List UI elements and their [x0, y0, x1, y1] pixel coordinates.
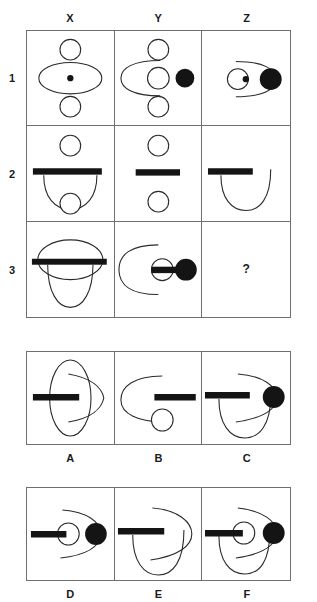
bar-short [118, 528, 164, 535]
matrix-cell-z1 [202, 31, 290, 126]
circle-filled-right [85, 523, 107, 545]
circle-bottom-open [148, 192, 169, 213]
option-cell-b[interactable] [115, 352, 203, 444]
figure-x2 [27, 126, 114, 220]
figure-option-c [202, 352, 290, 444]
circle-top-open [60, 39, 81, 60]
bar-wide [32, 258, 107, 264]
center-dot-filled [243, 76, 249, 82]
row-label-3: 3 [0, 222, 24, 318]
options-grid-abc [26, 351, 291, 445]
option-cell-f[interactable] [202, 488, 290, 580]
circle-bottom-open [148, 96, 169, 117]
figure-y3 [115, 222, 202, 317]
figure-y2 [115, 126, 202, 220]
circle-bottom-open [60, 96, 81, 117]
option-labels-def: D E F [26, 585, 291, 602]
option-label-d: D [26, 585, 114, 602]
circle-filled-right [260, 68, 282, 90]
bar-wide [33, 169, 102, 175]
option-label-e: E [114, 585, 202, 602]
column-header-z: Z [203, 8, 291, 28]
circle-filled-right [263, 386, 285, 408]
option-label-c: C [203, 449, 291, 467]
matrix-cell-x1 [27, 31, 115, 126]
figure-option-a [27, 352, 114, 444]
column-headers: X Y Z [26, 8, 291, 28]
column-header-x: X [26, 8, 114, 28]
circle-center-open [147, 67, 169, 89]
option-cell-e[interactable] [115, 488, 203, 580]
figure-option-e [115, 488, 202, 580]
figure-x1 [27, 31, 114, 125]
bar-wide [33, 394, 79, 401]
bar-short [154, 394, 195, 401]
bar-short [31, 531, 66, 538]
figure-option-b [115, 352, 202, 444]
row-labels: 1 2 3 [0, 30, 24, 318]
center-dot-filled [67, 75, 73, 81]
option-label-a: A [26, 449, 114, 467]
circle-bottom-open [151, 409, 173, 431]
figure-option-f [202, 488, 290, 580]
circle-bottom-open [60, 194, 81, 215]
option-cell-a[interactable] [27, 352, 115, 444]
options-grid-def [26, 487, 291, 581]
row-label-1: 1 [0, 30, 24, 126]
matrix-cell-z3-missing[interactable]: ? [202, 222, 290, 317]
matrix-cell-z2 [202, 126, 290, 221]
figure-x3 [27, 222, 114, 317]
circle-filled-right [175, 69, 194, 88]
circle-filled-right [175, 258, 197, 280]
figure-option-d [27, 488, 114, 580]
figure-z2 [202, 126, 290, 220]
bar-short [205, 392, 250, 399]
figure-z1 [202, 31, 290, 125]
bar-short [135, 170, 179, 176]
u-curve-below [219, 396, 271, 438]
matrix-grid: ? [26, 30, 291, 318]
bar-short [205, 530, 243, 537]
matrix-cell-y1 [115, 31, 203, 126]
option-cell-c[interactable] [202, 352, 290, 444]
figure-y1 [115, 31, 202, 125]
question-mark: ? [202, 222, 290, 317]
circle-top-open [148, 136, 169, 157]
u-curve-below [221, 170, 271, 211]
option-labels-abc: A B C [26, 449, 291, 467]
option-label-f: F [203, 585, 291, 602]
circle-top-open [148, 39, 169, 60]
bar-short [208, 169, 253, 175]
circle-filled-right [263, 522, 285, 544]
matrix-cell-y2 [115, 126, 203, 221]
option-cell-d[interactable] [27, 488, 115, 580]
matrix-cell-x3 [27, 222, 115, 317]
row-label-2: 2 [0, 126, 24, 222]
matrix-cell-y3 [115, 222, 203, 317]
circle-top-open [60, 136, 81, 157]
u-curve-below [48, 264, 93, 307]
matrix-cell-x2 [27, 126, 115, 221]
option-label-b: B [114, 449, 202, 467]
column-header-y: Y [114, 8, 202, 28]
